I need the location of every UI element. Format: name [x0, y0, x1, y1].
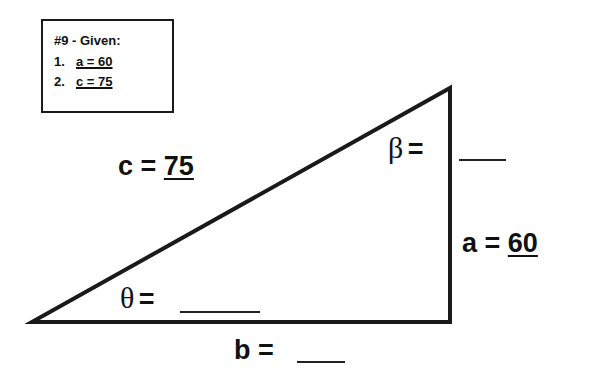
angle-beta-label: β =	[388, 131, 424, 165]
beta-symbol: β	[388, 131, 403, 164]
angle-theta-label: θ =	[120, 281, 155, 315]
theta-equals: =	[139, 284, 155, 314]
side-a-name: a =	[462, 228, 500, 258]
side-a-label: a = 60	[462, 228, 538, 259]
side-c-name: c =	[118, 151, 156, 181]
side-b-name: b =	[234, 335, 274, 365]
side-b-label: b =	[234, 335, 274, 366]
beta-answer-blank[interactable]	[459, 150, 506, 161]
side-b-answer-blank[interactable]	[297, 352, 345, 363]
side-c-value: 75	[164, 151, 194, 181]
side-a-value: 60	[508, 228, 538, 258]
side-c-label: c = 75	[118, 151, 194, 182]
theta-symbol: θ	[120, 281, 134, 314]
triangle-outline	[32, 88, 450, 322]
theta-answer-blank[interactable]	[180, 302, 260, 313]
beta-equals: =	[408, 134, 424, 164]
right-triangle	[0, 0, 596, 377]
